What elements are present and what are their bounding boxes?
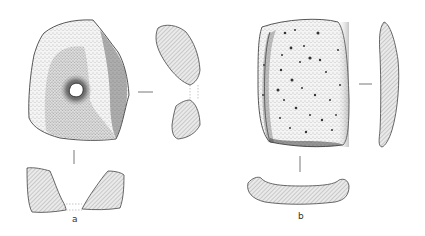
artifact-b-label: b: [298, 211, 304, 221]
artifact-b-side-section: [379, 22, 399, 147]
artifact-a-front-view: [29, 20, 129, 141]
perforation-hole: [69, 83, 83, 97]
archaeological-drawing: [0, 0, 425, 236]
artifact-a-bottom-section: [27, 168, 124, 213]
artifact-b-bottom-section: [248, 177, 349, 204]
artifact-a-side-section: [156, 25, 200, 139]
artifact-a-label: a: [72, 214, 78, 224]
artifact-b-front-view: [258, 19, 349, 147]
